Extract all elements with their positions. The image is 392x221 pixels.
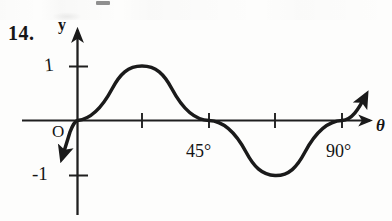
x-tick-label-90-degrees: 90°	[326, 141, 351, 162]
x-tick-label-45-degrees: 45°	[186, 141, 211, 162]
figure-container: 14. y θ 1 -1 O 45° 90°	[0, 0, 392, 221]
y-axis-label: y	[58, 16, 66, 34]
theta-axis-label: θ	[376, 116, 385, 136]
origin-label: O	[52, 122, 64, 142]
y-tick-label-positive-one: 1	[43, 54, 54, 77]
y-tick-label-negative-one: -1	[32, 163, 48, 185]
